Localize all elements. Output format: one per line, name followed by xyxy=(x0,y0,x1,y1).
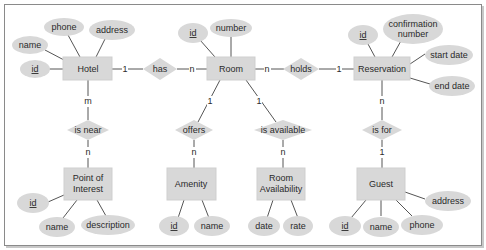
attr-label: name xyxy=(19,40,42,50)
attr-label: id xyxy=(170,221,177,231)
attr-label: address xyxy=(96,25,129,35)
attr-label: id xyxy=(31,64,38,74)
relationship-is-near[interactable]: is near xyxy=(67,120,109,140)
relationship-label: is for xyxy=(372,125,392,135)
cardinality-label: m xyxy=(84,96,92,106)
entity-point-of-interest[interactable]: Point of Interest xyxy=(64,168,112,200)
attr-reservation-id: id xyxy=(348,25,378,45)
entity-room[interactable]: Room xyxy=(207,57,255,80)
attr-room-number: number xyxy=(210,19,252,37)
attr-label: description xyxy=(86,220,130,230)
entity-amenity[interactable]: Amenity xyxy=(167,168,216,200)
entity-guest[interactable]: Guest xyxy=(357,168,405,200)
attr-hotel-phone: phone xyxy=(44,18,84,36)
attr-label-line1: confirmation xyxy=(388,19,437,29)
entity-reservation[interactable]: Reservation xyxy=(354,57,410,80)
entity-label: Reservation xyxy=(358,64,406,74)
attr-reservation-start-date: start date xyxy=(425,45,473,65)
cardinality-label: n xyxy=(85,147,90,157)
attr-label: phone xyxy=(51,22,76,32)
cardinality-label: 1 xyxy=(336,64,341,74)
attr-label: id xyxy=(359,30,366,40)
attr-label-line2: number xyxy=(398,29,429,39)
relationship-label: has xyxy=(153,64,168,74)
attr-amenity-name: name xyxy=(194,216,230,236)
cardinality-label: 1 xyxy=(256,96,261,106)
attr-guest-id: id xyxy=(329,216,361,236)
attr-label: rate xyxy=(290,221,306,231)
attr-poi-description: description xyxy=(81,215,135,235)
attr-hotel-id: id xyxy=(20,60,50,78)
cardinality-label: 1 xyxy=(207,96,212,106)
entity-label: Amenity xyxy=(175,179,208,189)
entity-label: Room xyxy=(219,64,243,74)
attr-amenity-id: id xyxy=(159,216,189,236)
attr-hotel-name: name xyxy=(12,36,48,54)
relationship-is-available[interactable]: is available xyxy=(254,120,312,140)
attr-label: id xyxy=(189,28,196,38)
relationship-offers[interactable]: offers xyxy=(175,120,213,140)
attr-label: name xyxy=(370,222,393,232)
cardinality-label: n xyxy=(379,96,384,106)
entity-label-line1: Room xyxy=(269,173,293,183)
attr-ra-rate: rate xyxy=(283,216,313,236)
cardinality-label: n xyxy=(189,64,194,74)
attr-label: name xyxy=(201,221,224,231)
attr-room-id: id xyxy=(178,23,208,43)
er-diagram: Hotel Room Reservation Point of Interest… xyxy=(0,0,486,250)
cardinality-label: n xyxy=(191,147,196,157)
attr-reservation-end-date: end date xyxy=(429,76,475,96)
relationship-has[interactable]: has xyxy=(143,58,177,80)
attr-label: start date xyxy=(430,50,468,60)
entity-label: Guest xyxy=(369,179,394,189)
relationship-label: is available xyxy=(261,125,306,135)
attr-poi-id: id xyxy=(17,193,49,213)
relationship-label: offers xyxy=(183,125,206,135)
attr-label: id xyxy=(29,198,36,208)
cardinality-label: n xyxy=(280,147,285,157)
attr-label: end date xyxy=(434,81,469,91)
attr-reservation-confirmation-number: confirmation number xyxy=(383,14,443,44)
entity-label-line2: Interest xyxy=(73,184,104,194)
relationship-label: holds xyxy=(290,64,312,74)
entity-hotel[interactable]: Hotel xyxy=(63,57,112,80)
attr-guest-phone: phone xyxy=(401,215,443,235)
entity-label-line1: Point of xyxy=(73,173,104,183)
attr-guest-name: name xyxy=(363,217,399,237)
attr-label: number xyxy=(216,23,247,33)
attr-label: address xyxy=(432,196,465,206)
attr-ra-date: date xyxy=(248,216,280,236)
relationship-holds[interactable]: holds xyxy=(283,58,319,80)
attr-label: name xyxy=(46,222,69,232)
attr-label: phone xyxy=(409,220,434,230)
cardinality-label: n xyxy=(264,64,269,74)
cardinality-label: 1 xyxy=(379,147,384,157)
entity-label-line2: Availability xyxy=(260,184,303,194)
attr-guest-address: address xyxy=(425,191,471,211)
relationship-label: is near xyxy=(74,125,101,135)
entity-label: Hotel xyxy=(77,64,98,74)
relationship-is-for[interactable]: is for xyxy=(362,120,402,140)
attr-poi-name: name xyxy=(39,217,75,237)
attr-label: id xyxy=(341,221,348,231)
entity-room-availability[interactable]: Room Availability xyxy=(257,168,305,200)
cardinality-label: 1 xyxy=(122,64,127,74)
attr-label: date xyxy=(255,221,273,231)
attr-hotel-address: address xyxy=(89,20,135,40)
